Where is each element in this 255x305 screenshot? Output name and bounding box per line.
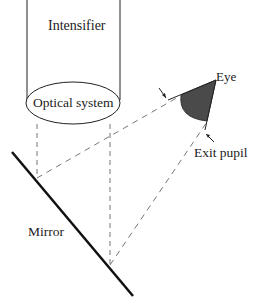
label-mirror: Mirror <box>28 225 64 239</box>
label-eye: Eye <box>216 70 236 83</box>
label-exit-pupil: Exit pupil <box>194 146 248 160</box>
eye-shape <box>181 80 216 121</box>
optical-diagram: Intensifier Optical system Eye Exit pupi… <box>0 0 255 305</box>
label-intensifier: Intensifier <box>48 19 106 33</box>
label-optical-system: Optical system <box>33 96 114 110</box>
ray-lower-reflected <box>110 122 207 265</box>
